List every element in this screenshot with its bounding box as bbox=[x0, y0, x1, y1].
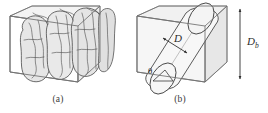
panel-b-group bbox=[137, 0, 240, 99]
figure-illustration bbox=[0, 0, 268, 113]
box-height-label: Db bbox=[247, 35, 259, 50]
inclination-angle-label: θ bbox=[148, 66, 152, 76]
box-height-label-subscript: b bbox=[255, 41, 259, 50]
blob-cluster bbox=[20, 8, 115, 82]
panel-b-caption: (b) bbox=[168, 94, 192, 104]
cylinder-diameter-label: D bbox=[174, 32, 182, 44]
box-height-label-main: D bbox=[247, 35, 255, 47]
panel-a-caption: (a) bbox=[46, 94, 70, 104]
panel-a-group bbox=[10, 6, 115, 82]
blob-shape bbox=[46, 11, 74, 79]
figure-container: D θ Db (a) (b) bbox=[0, 0, 268, 113]
